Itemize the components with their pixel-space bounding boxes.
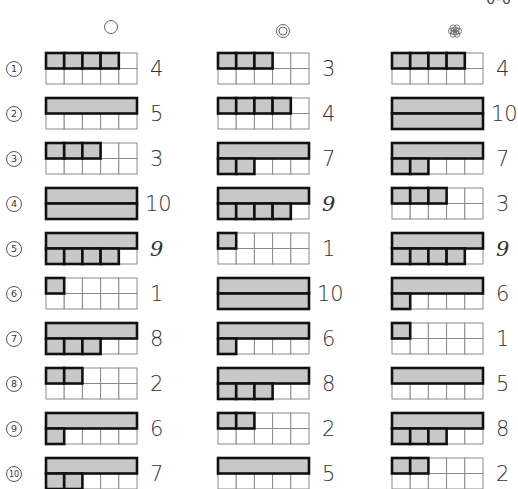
answer-number: 6 xyxy=(150,419,163,440)
single-circle-icon xyxy=(103,19,119,35)
row-number-label: 7 xyxy=(6,331,22,347)
row-number: 6 xyxy=(11,288,17,299)
ten-frame xyxy=(46,98,137,129)
row-number: 9 xyxy=(11,423,17,434)
ten-frame xyxy=(46,458,137,489)
row-number: 8 xyxy=(11,378,17,389)
ten-frame xyxy=(218,323,309,354)
answer-number: 10 xyxy=(491,104,518,125)
row-number: 1 xyxy=(11,63,17,74)
ten-frame xyxy=(218,98,309,129)
row-number: 2 xyxy=(11,108,17,119)
ten-frame xyxy=(46,143,137,174)
ten-frame xyxy=(46,233,137,264)
row-number-label: 6 xyxy=(6,286,22,302)
answer-number: 7 xyxy=(150,464,163,485)
answer-number: 9 xyxy=(150,239,163,260)
ten-frame xyxy=(392,53,483,84)
ten-frame xyxy=(392,413,483,444)
ten-frame xyxy=(392,188,483,219)
double-circle-icon xyxy=(275,23,291,39)
answer-number: 2 xyxy=(150,374,163,395)
row-number-label: 10 xyxy=(6,466,22,482)
ten-frame xyxy=(46,368,137,399)
ten-frame xyxy=(218,413,309,444)
ten-frame xyxy=(218,53,309,84)
row-number-label: 4 xyxy=(6,196,22,212)
flower-circle-icon xyxy=(447,23,463,39)
ten-frame xyxy=(218,188,309,219)
answer-number: 5 xyxy=(150,104,163,125)
answer-number: 1 xyxy=(496,329,509,350)
answer-number: 1 xyxy=(322,239,335,260)
ten-frame xyxy=(392,98,483,129)
answer-number: 10 xyxy=(145,194,172,215)
ten-frame xyxy=(46,278,137,309)
ten-frame xyxy=(392,368,483,399)
answer-number: 8 xyxy=(322,374,335,395)
ten-frame xyxy=(46,413,137,444)
answer-number: 3 xyxy=(322,59,335,80)
answer-number: 3 xyxy=(496,194,509,215)
page-marker: 0-0 xyxy=(486,0,512,7)
answer-number: 5 xyxy=(322,464,335,485)
row-number: 10 xyxy=(9,470,19,479)
ten-frame xyxy=(218,233,309,264)
answer-number: 8 xyxy=(150,329,163,350)
ten-frame xyxy=(218,458,309,489)
ten-frame xyxy=(392,323,483,354)
ten-frame xyxy=(218,278,309,309)
answer-number: 9 xyxy=(322,194,335,215)
answer-number: 3 xyxy=(150,149,163,170)
answer-number: 10 xyxy=(317,284,344,305)
answer-number: 2 xyxy=(322,419,335,440)
ten-frame xyxy=(218,143,309,174)
ten-frame xyxy=(46,323,137,354)
answer-number: 4 xyxy=(322,104,335,125)
row-number: 3 xyxy=(11,153,17,164)
ten-frame xyxy=(218,368,309,399)
answer-number: 9 xyxy=(496,239,509,260)
answer-number: 8 xyxy=(496,419,509,440)
answer-number: 1 xyxy=(150,284,163,305)
answer-number: 6 xyxy=(496,284,509,305)
ten-frame xyxy=(392,458,483,489)
row-number: 5 xyxy=(11,243,17,254)
ten-frame xyxy=(392,233,483,264)
ten-frame xyxy=(46,53,137,84)
row-number-label: 1 xyxy=(6,61,22,77)
ten-frame xyxy=(392,278,483,309)
ten-frame xyxy=(392,143,483,174)
answer-number: 4 xyxy=(150,59,163,80)
answer-number: 2 xyxy=(496,464,509,485)
answer-number: 5 xyxy=(496,374,509,395)
row-number-label: 2 xyxy=(6,106,22,122)
answer-number: 7 xyxy=(322,149,335,170)
row-number: 4 xyxy=(11,198,17,209)
row-number-label: 5 xyxy=(6,241,22,257)
row-number: 7 xyxy=(11,333,17,344)
answer-number: 7 xyxy=(496,149,509,170)
ten-frame xyxy=(46,188,137,219)
row-number-label: 9 xyxy=(6,421,22,437)
answer-number: 4 xyxy=(496,59,509,80)
answer-number: 6 xyxy=(322,329,335,350)
row-number-label: 8 xyxy=(6,376,22,392)
row-number-label: 3 xyxy=(6,151,22,167)
